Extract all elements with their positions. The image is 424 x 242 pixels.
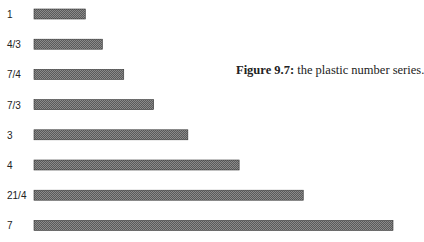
bar-7: [34, 220, 393, 230]
category-label: 4: [7, 160, 13, 171]
bar-1: [34, 9, 85, 19]
bar-3: [34, 130, 188, 140]
category-label: 7/4: [7, 69, 21, 80]
category-label: 7: [7, 220, 13, 231]
category-label: 7/3: [7, 100, 21, 111]
bar-21-4: [34, 190, 303, 200]
bar-7-4: [34, 69, 124, 79]
category-label: 1: [7, 9, 13, 20]
bar-7-3: [34, 100, 154, 110]
caption-label: Figure 9.7:: [236, 63, 294, 77]
bar-4-3: [34, 39, 102, 49]
category-label: 4/3: [7, 39, 21, 50]
category-label: 21/4: [7, 190, 27, 201]
category-label: 3: [7, 130, 13, 141]
figure-caption: Figure 9.7: the plastic number series.: [236, 63, 424, 78]
bar-4: [34, 160, 239, 170]
caption-text: the plastic number series.: [294, 63, 424, 77]
